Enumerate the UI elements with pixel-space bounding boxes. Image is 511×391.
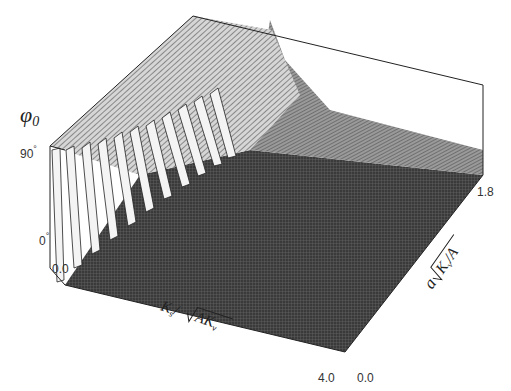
surface-plot: φ0 90° 0° 0.0 4.0 Ks/ AKv 0.0 1.8 a Kv/A [0, 0, 511, 391]
svg-text:a: a [420, 274, 440, 292]
z-tick-0: 0° [39, 231, 50, 248]
y-tick-18: 1.8 [477, 185, 494, 199]
x-tick-4: 4.0 [318, 371, 335, 385]
z-axis-label: φ0 [20, 102, 39, 129]
x-tick-0: 0.0 [52, 262, 69, 276]
z-tick-90: 90° [20, 144, 37, 161]
y-tick-0: 0.0 [357, 371, 374, 385]
